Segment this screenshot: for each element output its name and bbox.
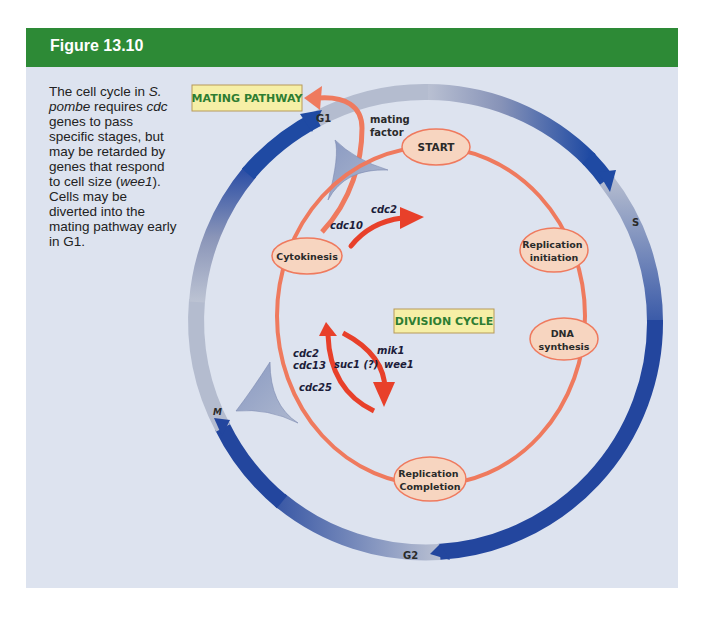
mating-arrowhead — [304, 86, 322, 110]
division-cycle-label: DIVISION CYCLE — [395, 315, 493, 328]
mating-pathway-label: MATING PATHWAY — [192, 92, 304, 105]
cell-cycle-diagram: G1 S G2 M MATING PATHWAY mating factor D… — [0, 0, 715, 620]
gene-cdc10: cdc10 — [330, 220, 363, 231]
phase-label-g2: G2 — [403, 550, 418, 561]
mating-factor-label: mating factor — [370, 114, 413, 138]
gene-wee1: wee1 — [384, 359, 414, 370]
node-replication-initiation: Replication initiation — [520, 228, 588, 272]
gene-cdc2-start: cdc2 — [371, 204, 397, 215]
gene-mik1: mik1 — [377, 345, 404, 356]
start-arrowhead — [400, 207, 424, 229]
inhibition-arrowhead — [373, 382, 395, 407]
g2-checkpoint-triangle — [236, 362, 298, 423]
gene-cdc2: cdc2 — [293, 348, 319, 359]
node-replication-completion: Replication Completion — [394, 457, 466, 501]
gene-suc1: suc1 (?) — [334, 359, 378, 370]
svg-text:Cytokinesis: Cytokinesis — [276, 251, 338, 262]
node-start: START — [402, 129, 470, 165]
g1-checkpoint-triangle — [328, 140, 388, 200]
mating-pathway-box: MATING PATHWAY — [192, 85, 304, 111]
division-cycle-box: DIVISION CYCLE — [394, 309, 494, 333]
node-dna-synthesis: DNA synthesis — [530, 318, 598, 360]
phase-label-s: S — [632, 217, 639, 228]
phase-label-g1: G1 — [316, 113, 331, 124]
gene-cdc25: cdc25 — [299, 382, 332, 393]
svg-text:START: START — [418, 141, 456, 153]
node-cytokinesis: Cytokinesis — [272, 238, 342, 274]
phase-label-m: M — [213, 407, 222, 417]
gene-cdc13: cdc13 — [293, 360, 326, 371]
activation-arrowhead — [319, 322, 337, 336]
